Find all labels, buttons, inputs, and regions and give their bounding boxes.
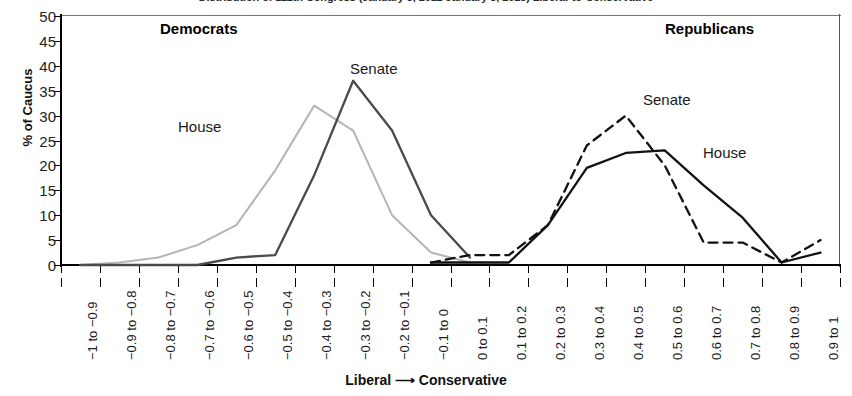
annotation-rep-senate: Senate [643, 91, 691, 108]
x-tick-label: −0.9 to −0.8 [124, 291, 139, 360]
annotation-republicans: Republicans [665, 20, 754, 37]
annotation-rep-house: House [703, 144, 746, 161]
annotation-dem-house: House [178, 118, 221, 135]
x-tick-label: −0.6 to −0.5 [241, 291, 256, 360]
x-axis-title: Liberal ⟶ Conservative [0, 372, 852, 388]
x-tick-label: −0.3 to −0.2 [358, 291, 373, 360]
annotation-dem-senate: Senate [350, 60, 398, 77]
series-line [80, 106, 470, 265]
x-tick-label: −1 to −0.9 [85, 301, 100, 360]
x-tick-label: −0.7 to −0.6 [202, 291, 217, 360]
x-tick-label: 0.1 to 0.2 [514, 306, 529, 360]
x-tick-label: 0.5 to 0.6 [670, 306, 685, 360]
x-tick-label: −0.8 to −0.7 [163, 291, 178, 360]
chart-container: Distribution of 112th Congress (January … [0, 0, 852, 396]
x-tick-label: −0.5 to −0.4 [280, 291, 295, 360]
x-tick-label: 0.7 to 0.8 [748, 306, 763, 360]
x-tick-label: −0.1 to 0 [436, 309, 451, 360]
annotation-democrats: Democrats [160, 20, 238, 37]
x-tick-label: −0.4 to −0.3 [319, 291, 334, 360]
series-line [431, 150, 821, 262]
x-tick-label: 0.9 to 1 [826, 317, 841, 360]
x-tick-label: 0.4 to 0.5 [631, 306, 646, 360]
x-axis-tick-labels: −1 to −0.9−0.9 to −0.8−0.8 to −0.7−0.7 t… [61, 286, 840, 366]
series-line [80, 81, 470, 265]
x-tick-label: −0.2 to −0.1 [397, 291, 412, 360]
x-tick-label: 0.2 to 0.3 [553, 306, 568, 360]
x-tick-label: 0.3 to 0.4 [592, 306, 607, 360]
x-tick-label: 0.6 to 0.7 [709, 306, 724, 360]
x-tick-label: 0 to 0.1 [475, 317, 490, 360]
x-tick-label: 0.8 to 0.9 [787, 306, 802, 360]
